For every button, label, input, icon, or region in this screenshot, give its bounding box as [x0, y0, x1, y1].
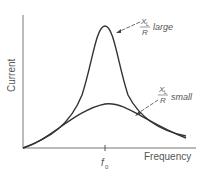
x-axis-label: Frequency — [144, 151, 191, 162]
ann-small-word: small — [171, 92, 193, 102]
ann-large-word: large — [153, 22, 173, 32]
f0-subscript: 0 — [105, 164, 109, 170]
resonance-diagram: Current Frequency f 0 X L R large X L R … — [0, 0, 208, 178]
curve-small — [23, 104, 186, 148]
ann-small-sub: L — [164, 89, 167, 95]
y-axis-label: Current — [6, 58, 17, 92]
ann-small-denominator: R — [160, 96, 166, 105]
arrowhead-large-icon — [116, 29, 121, 33]
ann-large-sub: L — [146, 21, 149, 27]
ann-large-denominator: R — [142, 28, 148, 37]
arrow-large — [118, 22, 140, 32]
